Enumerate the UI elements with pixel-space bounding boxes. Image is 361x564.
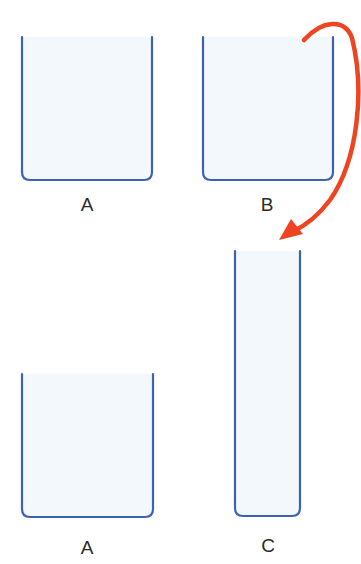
- label-top-b: B: [247, 195, 287, 215]
- beaker-bottom-a: [22, 374, 153, 517]
- diagram-canvas: [0, 0, 361, 564]
- beaker-top-b: [203, 37, 333, 180]
- cylinder-c: [235, 251, 300, 516]
- label-top-a: A: [67, 195, 107, 215]
- beaker-top-a: [22, 37, 152, 180]
- label-bottom-c: C: [248, 536, 288, 556]
- label-bottom-a: A: [67, 538, 107, 558]
